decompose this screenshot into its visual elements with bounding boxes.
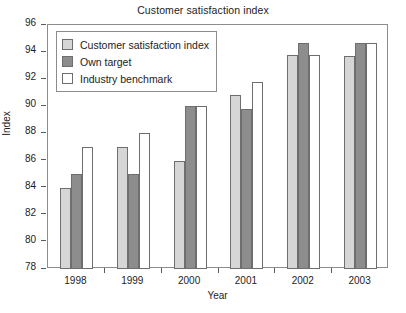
legend-item: Own target xyxy=(62,53,209,70)
bar xyxy=(185,106,196,269)
legend-swatch-icon xyxy=(62,73,73,84)
x-tick-mark xyxy=(331,268,332,273)
bar-chart: Customer satisfaction index Index 788082… xyxy=(0,0,406,313)
x-axis-label: Year xyxy=(47,290,388,301)
y-tick-label: 96 xyxy=(8,17,36,28)
bar xyxy=(82,147,93,269)
x-tick-mark xyxy=(274,268,275,273)
bar xyxy=(139,133,150,269)
x-tick-label: 2002 xyxy=(273,275,333,286)
y-tick-mark xyxy=(41,24,46,25)
y-tick-label: 86 xyxy=(8,153,36,164)
bar xyxy=(128,174,139,269)
legend-label: Customer satisfaction index xyxy=(80,39,209,51)
y-tick-mark xyxy=(41,159,46,160)
bar xyxy=(309,55,320,269)
bar xyxy=(366,43,377,269)
legend-item: Customer satisfaction index xyxy=(62,36,209,53)
bar xyxy=(344,56,355,269)
y-tick-label: 80 xyxy=(8,234,36,245)
y-tick-label: 90 xyxy=(8,98,36,109)
y-tick-mark xyxy=(41,268,46,269)
bar xyxy=(241,109,252,269)
x-tick-mark xyxy=(104,268,105,273)
y-tick-mark xyxy=(41,213,46,214)
bar xyxy=(287,55,298,269)
legend-swatch-icon xyxy=(62,39,73,50)
x-tick-label: 1998 xyxy=(45,275,105,286)
y-tick-label: 94 xyxy=(8,44,36,55)
y-tick-label: 88 xyxy=(8,125,36,136)
bar xyxy=(71,174,82,269)
y-tick-mark xyxy=(41,78,46,79)
x-tick-label: 2003 xyxy=(330,275,390,286)
chart-legend: Customer satisfaction indexOwn targetInd… xyxy=(56,31,217,92)
bar xyxy=(174,161,185,269)
chart-title: Customer satisfaction index xyxy=(0,4,406,16)
bar xyxy=(355,43,366,269)
x-tick-mark xyxy=(218,268,219,273)
x-tick-label: 2001 xyxy=(216,275,276,286)
y-tick-mark xyxy=(41,240,46,241)
y-tick-mark xyxy=(41,105,46,106)
bar xyxy=(230,95,241,269)
bar xyxy=(298,43,309,269)
legend-label: Own target xyxy=(80,56,131,68)
y-tick-label: 84 xyxy=(8,180,36,191)
bar xyxy=(60,188,71,269)
y-tick-mark xyxy=(41,186,46,187)
bar xyxy=(117,147,128,269)
legend-item: Industry benchmark xyxy=(62,70,209,87)
y-tick-label: 82 xyxy=(8,207,36,218)
y-tick-label: 78 xyxy=(8,261,36,272)
x-tick-mark xyxy=(161,268,162,273)
x-tick-label: 2000 xyxy=(159,275,219,286)
bar xyxy=(252,82,263,269)
y-tick-label: 92 xyxy=(8,71,36,82)
y-tick-mark xyxy=(41,51,46,52)
y-tick-mark xyxy=(41,132,46,133)
legend-swatch-icon xyxy=(62,56,73,67)
x-tick-label: 1999 xyxy=(102,275,162,286)
legend-label: Industry benchmark xyxy=(80,73,172,85)
bar xyxy=(196,106,207,269)
